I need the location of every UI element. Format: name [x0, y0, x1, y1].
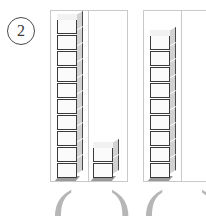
unit-cube	[150, 31, 172, 47]
answer-paren-open-one: (	[52, 181, 73, 216]
unit-cube	[57, 15, 79, 31]
answer-paren-close-two: )	[200, 181, 206, 216]
answer-paren-open-two: (	[143, 181, 164, 216]
answer-paren-close-one: )	[110, 181, 131, 216]
group-one-ones-units	[93, 143, 115, 175]
group-one-cell-divider	[88, 11, 89, 181]
worksheet-canvas: 2	[0, 0, 206, 216]
unit-cube	[93, 143, 115, 159]
group-two-tens-rod	[150, 31, 172, 175]
problem-number-badge: 2	[7, 17, 35, 45]
group-one-tens-rod	[57, 15, 79, 175]
group-two-cell-divider	[181, 11, 182, 181]
block-group-one	[50, 10, 128, 182]
block-group-two	[143, 10, 206, 182]
